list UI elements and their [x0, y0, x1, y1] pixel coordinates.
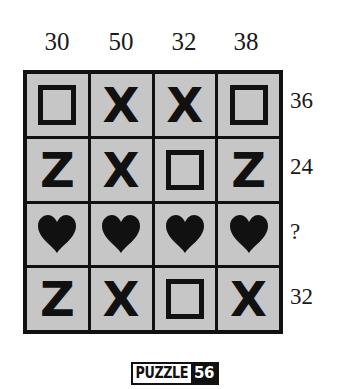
grid-cell-r4-c4: X	[218, 268, 279, 330]
heart-icon	[36, 214, 78, 254]
column-total-3: 32	[153, 28, 215, 56]
z-letter-icon: Z	[231, 146, 266, 194]
grid-cell-r1-c1	[27, 74, 88, 136]
badge-number: 56	[191, 364, 217, 383]
grid-cell-r3-c4	[218, 204, 279, 266]
grid-cell-r3-c3	[155, 204, 216, 266]
puzzle-grid: XXZXZZXX	[23, 70, 283, 334]
x-letter-icon: X	[230, 275, 267, 323]
x-letter-icon: X	[103, 146, 140, 194]
row-total-3: ?	[290, 219, 330, 245]
heart-icon	[164, 214, 206, 254]
z-letter-icon: Z	[40, 275, 75, 323]
heart-icon	[100, 214, 142, 254]
heart-icon	[228, 214, 270, 254]
grid-cell-r3-c2	[91, 204, 152, 266]
square-icon	[166, 279, 204, 319]
square-icon	[38, 85, 76, 125]
column-total-2: 50	[90, 28, 152, 56]
z-letter-icon: Z	[40, 146, 75, 194]
puzzle-badge: PUZZLE 56	[131, 362, 219, 385]
row-total-1: 36	[290, 88, 330, 114]
grid-cell-r1-c4	[218, 74, 279, 136]
badge-word: PUZZLE	[133, 364, 182, 383]
square-icon	[230, 85, 268, 125]
grid-cell-r2-c2: X	[91, 139, 152, 201]
grid-cell-r4-c1: Z	[27, 268, 88, 330]
row-total-4: 32	[290, 284, 330, 310]
grid-cell-r1-c3: X	[155, 74, 216, 136]
column-total-4: 38	[215, 28, 277, 56]
grid-cell-r2-c4: Z	[218, 139, 279, 201]
x-letter-icon: X	[103, 275, 140, 323]
grid-cell-r2-c3	[155, 139, 216, 201]
grid-cell-r1-c2: X	[91, 74, 152, 136]
grid-cell-r3-c1	[27, 204, 88, 266]
x-letter-icon: X	[166, 81, 203, 129]
square-icon	[166, 150, 204, 190]
grid-cell-r4-c2: X	[91, 268, 152, 330]
grid-cell-r2-c1: Z	[27, 139, 88, 201]
grid-cell-r4-c3	[155, 268, 216, 330]
x-letter-icon: X	[103, 81, 140, 129]
column-total-1: 30	[26, 28, 88, 56]
row-total-2: 24	[290, 154, 330, 180]
